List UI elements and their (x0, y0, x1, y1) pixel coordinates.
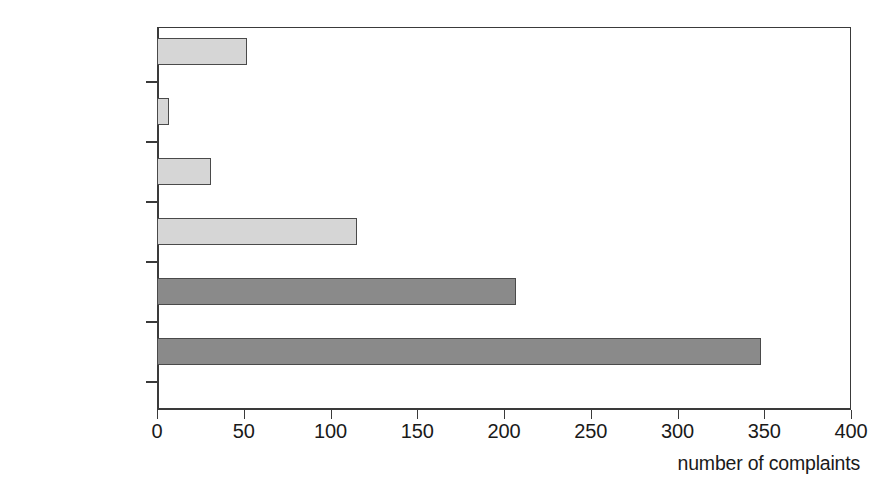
x-axis-tick-label: 250 (574, 420, 607, 443)
bar-1948-89-total (157, 278, 516, 305)
x-axis-tick-label: 150 (401, 420, 434, 443)
x-axis-tick-label: 300 (661, 420, 694, 443)
bar-1995-2004 (157, 338, 761, 365)
x-axis-tick (678, 410, 679, 419)
bar-1948-59 (157, 38, 247, 65)
y-axis-tick (146, 381, 158, 383)
x-axis-tick (244, 410, 245, 419)
y-axis-tick (146, 81, 158, 83)
x-axis-tick-label: 400 (835, 420, 868, 443)
x-axis-tick (764, 410, 765, 419)
x-axis-tick-label: 100 (314, 420, 347, 443)
x-axis-tick (851, 410, 852, 419)
x-axis-tick-label: 0 (152, 420, 163, 443)
y-axis-tick (146, 141, 158, 143)
x-axis-tick-label: 200 (488, 420, 521, 443)
x-axis-tick (157, 410, 158, 419)
x-axis-tick (504, 410, 505, 419)
x-axis-title: number of complaints (678, 452, 860, 475)
bar-1970-79 (157, 158, 211, 185)
x-axis-tick-label: 350 (748, 420, 781, 443)
x-axis-tick-label: 50 (233, 420, 255, 443)
y-axis-tick (146, 201, 158, 203)
y-axis-tick (146, 261, 158, 263)
y-axis-tick (146, 321, 158, 323)
x-axis-tick (591, 410, 592, 419)
bar-1960-69 (157, 98, 169, 125)
x-axis-tick (331, 410, 332, 419)
bar-chart: 1948–591960–691970–791980–891948–89 tota… (0, 0, 887, 494)
bar-1980-89 (157, 218, 357, 245)
x-axis-tick (417, 410, 418, 419)
